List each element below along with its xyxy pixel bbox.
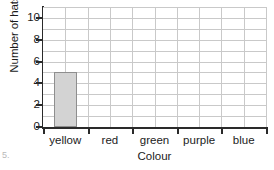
gridline-vertical [266, 7, 267, 127]
x-axis-tick-mark [266, 127, 268, 134]
x-axis-title: Colour [43, 150, 266, 163]
y-axis-tick-labels: 0246810 [18, 0, 40, 170]
bar-yellow [54, 72, 77, 127]
x-axis-category-label: yellow [43, 134, 88, 146]
x-axis-category-label: green [132, 134, 177, 146]
page-corner-artifact: 5. [2, 150, 10, 160]
gridline-vertical [155, 7, 156, 127]
x-axis-line [42, 127, 267, 129]
y-axis-tick-mark [36, 82, 43, 84]
x-axis-category-label: purple [177, 134, 222, 146]
gridline-vertical [132, 7, 133, 127]
x-axis-tick-mark [88, 127, 90, 134]
gridline-vertical [177, 7, 178, 127]
x-axis-tick-mark [177, 127, 179, 134]
y-axis-tick-mark [36, 39, 43, 41]
y-axis-tick-mark [36, 126, 43, 128]
gridline-vertical [221, 7, 222, 127]
x-axis-tick-mark [132, 127, 134, 134]
x-axis-tick-mark [43, 127, 45, 134]
bar-chart: Number of hats 0246810 Colour 5. yellowr… [0, 0, 274, 170]
y-axis-tick-mark [36, 104, 43, 106]
y-axis-tick-mark [36, 61, 43, 63]
gridline-vertical [199, 7, 200, 127]
gridline-vertical [110, 7, 111, 127]
x-axis-category-label: red [88, 134, 133, 146]
x-axis-category-label: blue [221, 134, 266, 146]
y-axis-tick-mark [36, 17, 43, 19]
gridline-vertical [244, 7, 245, 127]
x-axis-tick-mark [221, 127, 223, 134]
gridline-vertical [88, 7, 89, 127]
